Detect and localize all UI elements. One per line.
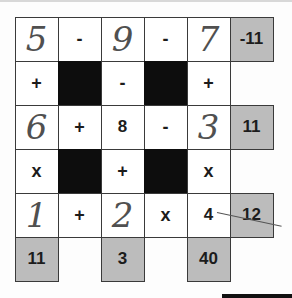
result-cell-r5-c0: 11 (15, 237, 59, 282)
operator-cell-r3-c2: + (101, 149, 145, 194)
number-cell-r4-c4[interactable]: 4 (187, 193, 231, 238)
operator-cell-r2-c1: + (58, 105, 102, 150)
result-cell-r5-c2: 3 (101, 237, 145, 282)
result-cell-r2-c5: 11 (230, 105, 274, 150)
number-cell-r2-c4[interactable]: 3 (187, 105, 231, 150)
empty-space-r5-c1 (58, 237, 101, 281)
result-cell-r0-c5: -11 (230, 17, 274, 62)
result-cell-r5-c4: 40 (187, 237, 231, 282)
operator-cell-r3-c0: x (15, 149, 59, 194)
number-cell-r4-c2[interactable]: 2 (101, 193, 145, 238)
math-puzzle-grid: 5-9-7-11+-+6+8-311x+x1+2x41211340 (15, 17, 273, 281)
operator-cell-r0-c1: - (58, 17, 102, 62)
blocked-cell-r3-c1 (58, 149, 102, 194)
operator-cell-r4-c1: + (58, 193, 102, 238)
blocked-cell-r1-c3 (144, 61, 188, 106)
operator-cell-r4-c3: x (144, 193, 188, 238)
operator-cell-r3-c4: x (187, 149, 231, 194)
number-cell-r0-c4[interactable]: 7 (187, 17, 231, 62)
bottom-edge-bar (222, 294, 292, 298)
number-cell-r0-c0[interactable]: 5 (15, 17, 59, 62)
operator-cell-r1-c0: + (15, 61, 59, 106)
empty-space-r5-c5 (230, 237, 273, 281)
operator-cell-r0-c3: - (144, 17, 188, 62)
empty-space-r5-c3 (144, 237, 187, 281)
number-cell-r2-c2[interactable]: 8 (101, 105, 145, 150)
top-edge-line (0, 0, 292, 2)
number-cell-r4-c0[interactable]: 1 (15, 193, 59, 238)
empty-space-r3-c5 (230, 149, 273, 193)
operator-cell-r1-c4: + (187, 61, 231, 106)
result-cell-r4-c5: 12 (230, 193, 274, 238)
operator-cell-r2-c3: - (144, 105, 188, 150)
operator-cell-r1-c2: - (101, 61, 145, 106)
number-cell-r2-c0[interactable]: 6 (15, 105, 59, 150)
blocked-cell-r3-c3 (144, 149, 188, 194)
empty-space-r1-c5 (230, 61, 273, 105)
blocked-cell-r1-c1 (58, 61, 102, 106)
number-cell-r0-c2[interactable]: 9 (101, 17, 145, 62)
